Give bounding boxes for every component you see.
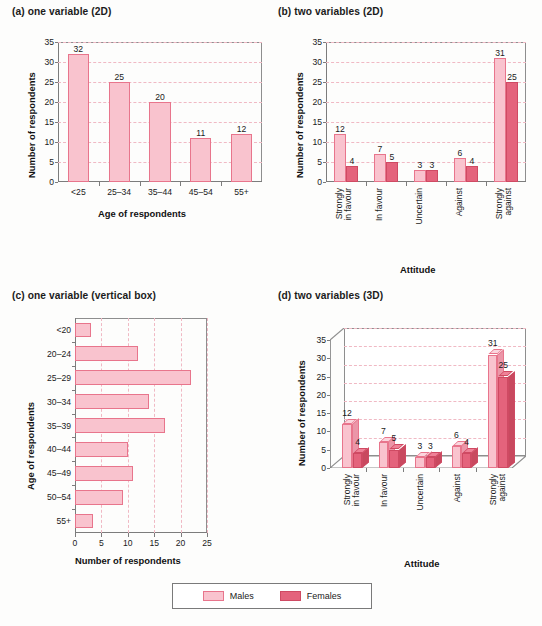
panel-b-y-tick-label: 30 [312,57,326,67]
panel-d-x-tick-label-line: Uncertain [416,474,425,510]
panel-a-x-tick-label: <25 [71,187,86,197]
panel-a-bar: 32 [68,54,89,182]
panel-b-x-tick-label-line: against [504,188,513,219]
panel-d-x-tickmark [403,468,404,472]
panel-d-y-tick-label: 20 [316,390,330,400]
panel-c-y-axis-label: Age of respondents [25,402,36,490]
panel-d-bar-front-face [452,446,461,468]
panel-d: (d) two variables (3D) 05101520253035124… [278,290,540,575]
panel-c-y-tick-label: 55+ [56,516,75,526]
panel-d-bar-value: 4 [464,437,469,447]
panel-c-y-tick-label: 50–54 [47,492,75,502]
panel-d-bar-males: 6 [452,446,461,468]
panel-a-x-tickmark [221,182,222,186]
panel-d-x-tick-label: In favour [380,474,389,507]
panel-b-bar-males: 3 [414,170,426,182]
panel-b-y-tick-label: 5 [317,157,326,167]
panel-c-bar [75,418,165,433]
panel-c-y-tickmark [72,366,76,367]
panel-c-y-tick-label: 25–29 [47,373,75,383]
panel-a-bar-value: 25 [114,72,124,82]
panel-c-y-tick-label: 35–39 [47,421,75,431]
panel-a-y-tick-label: 15 [44,117,58,127]
panel-b-plot-area: 05101520253035124Stronglyin favour75In f… [326,42,526,182]
panel-a: (a) one variable (2D) 0510152025303532<2… [12,6,272,221]
panel-d-bar-front-face [498,377,507,468]
panel-a-y-axis [58,42,59,182]
panel-b: (b) two variables (2D) 05101520253035124… [278,6,540,278]
panel-c-y-tick-label: 40–44 [47,444,75,454]
panel-d-x-tick-label-line: Against [453,474,462,502]
panel-d-bar-females: 3 [426,457,435,468]
panel-a-bar: 12 [231,134,252,182]
panel-b-bar-females: 5 [386,162,398,182]
panel-d-gridline [344,346,526,347]
panel-c-bar [75,346,138,361]
panel-c-x-tickmark [75,533,76,537]
panel-b-bar-males: 7 [374,154,386,182]
panel-d-bar-front-face [462,453,471,468]
panel-c-x-tick-label: 15 [149,538,159,548]
panel-d-bar-front-face [415,457,424,468]
panel-a-y-tick-label: 20 [44,97,58,107]
panel-d-bar-front-face [426,457,435,468]
panel-c-bar [75,394,149,409]
panel-c-x-tick-label: 20 [176,538,186,548]
panel-a-bar-value: 12 [237,124,247,134]
panel-c-x-tickmark [181,533,182,537]
panel-b-x-tick-label: Stronglyin favour [335,188,353,221]
panel-a-bar: 11 [190,138,211,182]
panel-d-bar-value: 12 [342,408,352,418]
panel-c-title: (c) one variable (vertical box) [12,290,156,301]
panel-d-y-tick-label: 25 [316,372,330,382]
panel-b-x-tick-label: Uncertain [415,188,424,224]
legend-swatch-females-icon [280,591,301,601]
panel-a-y-axis-label: Number of respondents [26,72,37,178]
panel-d-bar-males: 31 [488,355,497,468]
panel-b-x-tick-label-line: In favour [375,188,384,221]
panel-c-plot-area: 0510152025<2020–2425–2930–3435–3940–4445… [75,318,207,533]
panel-b-y-tick-label: 0 [317,177,326,187]
panel-d-bar-value: 31 [488,338,498,348]
panel-b-x-tickmark [366,182,367,186]
panel-d-bar-males: 12 [342,424,351,468]
panel-d-bar-front-face [353,453,362,468]
panel-a-x-tick-label: 35–44 [148,187,172,197]
panel-c-x-tick-label: 25 [202,538,212,548]
panel-a-bar: 20 [149,102,170,182]
panel-d-bar-males: 7 [379,442,388,468]
panel-a-plot-area: 0510152025303532<252525–342035–441145–54… [58,42,262,182]
panel-c-bar [75,490,123,505]
panel-a-bar-value: 11 [196,128,205,138]
panel-c-bar [75,323,91,338]
panel-b-y-tick-label: 15 [312,117,326,127]
panel-c-x-tickmark [154,533,155,537]
panel-c-bar [75,442,128,457]
panel-c-x-axis [75,532,207,533]
panel-c-gridline [207,318,208,533]
panel-a-x-tickmark [140,182,141,186]
panel-b-bar-value: 4 [470,156,475,166]
panel-d-bar-value: 4 [355,437,360,447]
panel-d-title: (d) two variables (3D) [278,290,383,301]
panel-d-x-tick-label-line: in favour [353,474,362,507]
panel-d-y-axis-label: Number of respondents [296,360,307,466]
panel-c-x-axis-label: Number of respondents [75,555,181,566]
panel-a-title: (a) one variable (2D) [12,6,111,17]
panel-d-plot-area: 05101520253035124Stronglyin favour75In f… [330,328,526,468]
panel-b-x-tickmark [406,182,407,186]
panel-d-bar-value: 5 [392,433,397,443]
panel-c-x-tickmark [207,533,208,537]
panel-d-bar-value: 6 [454,430,459,440]
panel-d-y-tick-label: 30 [316,353,330,363]
panel-a-x-tick-label: 45–54 [189,187,213,197]
panel-c-x-tick-label: 10 [123,538,133,548]
panel-d-bar-females: 25 [498,377,507,468]
panel-a-gridline [58,42,262,43]
panel-b-bar-value: 31 [495,48,505,58]
panel-b-bar-males: 31 [494,58,506,182]
panel-b-y-tick-label: 10 [312,137,326,147]
panel-d-bar-front-face [379,442,388,468]
panel-d-x-tickmark [366,468,367,472]
panel-d-x-tick-label: Stronglyin favour [343,474,361,507]
